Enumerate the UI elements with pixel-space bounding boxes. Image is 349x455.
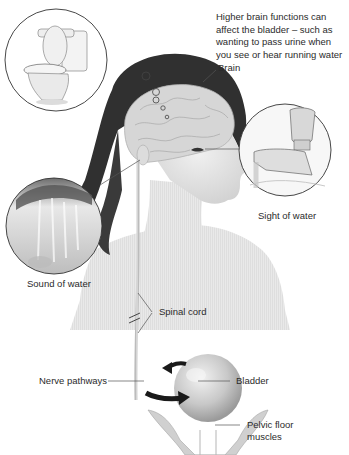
label-pelvic-floor: Pelvic floor muscles	[247, 419, 293, 443]
label-brain: Brain	[218, 62, 240, 74]
waterfall-inset	[6, 178, 102, 274]
label-pelvic-floor-line2: muscles	[247, 431, 293, 443]
arrow-left-icon	[162, 362, 172, 374]
label-spinal-cord: Spinal cord	[159, 306, 207, 318]
label-bladder: Bladder	[236, 375, 269, 387]
label-sound-of-water: Sound of water	[27, 278, 91, 290]
label-pelvic-floor-line1: Pelvic floor	[247, 419, 293, 431]
tap-inset	[239, 104, 331, 196]
diagram-caption: Higher brain functions can affect the bl…	[216, 11, 348, 61]
toilet-inset	[5, 9, 107, 111]
label-nerve-pathways: Nerve pathways	[39, 375, 107, 387]
label-sight-of-water: Sight of water	[258, 210, 316, 222]
